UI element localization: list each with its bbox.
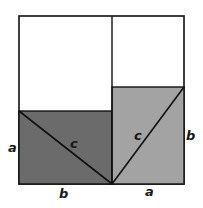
label-bottom-b: b bbox=[59, 186, 68, 201]
label-right-b: b bbox=[186, 128, 195, 143]
label-right-c: c bbox=[134, 128, 142, 143]
label-bottom-a: a bbox=[145, 184, 154, 199]
label-left-a: a bbox=[8, 140, 17, 155]
pythagoras-diagram: a c b c b a bbox=[0, 0, 203, 208]
label-left-c: c bbox=[70, 136, 78, 151]
